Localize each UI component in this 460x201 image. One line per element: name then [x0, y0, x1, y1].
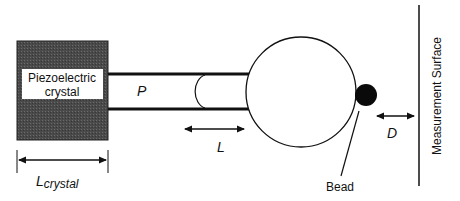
crystal-length-label: Lcrystal — [36, 173, 79, 191]
bubble-circle — [246, 37, 356, 147]
surface-label: Measurement Surface — [430, 37, 444, 155]
crystal-label-line1: Piezoelectric — [28, 71, 96, 85]
bead — [355, 84, 377, 106]
capillary-tube: P — [108, 74, 250, 109]
bead-label: Bead — [326, 180, 354, 194]
crystal-length-dimension: Lcrystal — [17, 150, 108, 191]
pressure-label: P — [137, 83, 147, 99]
diagram-canvas: Piezoelectric crystal P Bead L Lcrystal … — [0, 0, 460, 201]
crystal-label-line2: crystal — [45, 85, 80, 99]
length-label: L — [217, 139, 225, 155]
meniscus — [195, 75, 205, 108]
piezoelectric-crystal: Piezoelectric crystal — [17, 41, 108, 140]
distance-label: D — [387, 125, 397, 141]
